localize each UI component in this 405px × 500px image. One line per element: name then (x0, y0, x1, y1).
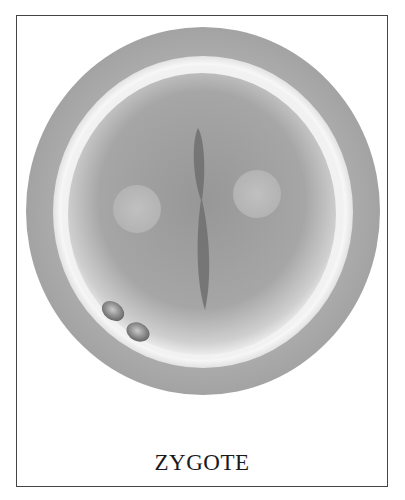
pronucleus-left (113, 185, 161, 233)
figure-caption: ZYGOTE (16, 450, 388, 476)
pronucleus-right (233, 170, 281, 218)
zygote-illustration (0, 0, 405, 500)
